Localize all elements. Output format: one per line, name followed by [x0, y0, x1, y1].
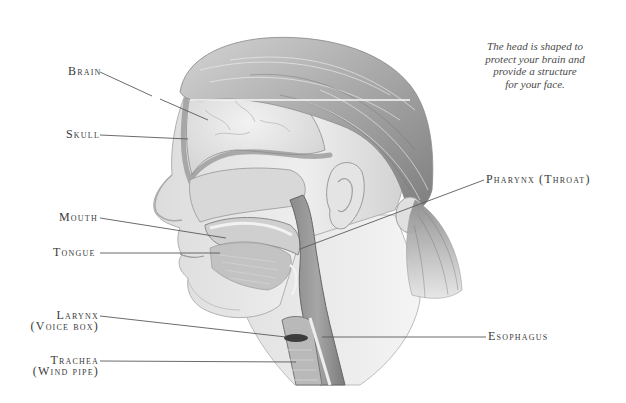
caption-line-2: protect your brain and — [460, 53, 610, 66]
anatomy-diagram: Brain Skull Mouth Tongue Larynx (Voice b… — [0, 0, 626, 403]
caption: The head is shaped to protect your brain… — [460, 40, 610, 90]
caption-line-4: for your face. — [460, 78, 610, 91]
label-tongue: Tongue — [53, 247, 96, 258]
label-skull: Skull — [66, 129, 100, 140]
label-esophagus: Esophagus — [488, 331, 548, 342]
leader-trachea — [100, 361, 296, 362]
label-brain: Brain — [68, 66, 102, 77]
label-trachea-sub: (Wind pipe) — [33, 366, 99, 377]
caption-line-3: provide a structure — [460, 65, 610, 78]
label-pharynx: Pharynx (Throat) — [486, 174, 591, 185]
label-mouth: Mouth — [59, 212, 98, 223]
label-trachea: Trachea (Wind pipe) — [33, 355, 99, 377]
caption-line-1: The head is shaped to — [460, 40, 610, 53]
leader-brain-1 — [100, 72, 152, 96]
label-larynx-sub: (Voice box) — [31, 321, 99, 332]
label-larynx: Larynx (Voice box) — [31, 310, 99, 332]
